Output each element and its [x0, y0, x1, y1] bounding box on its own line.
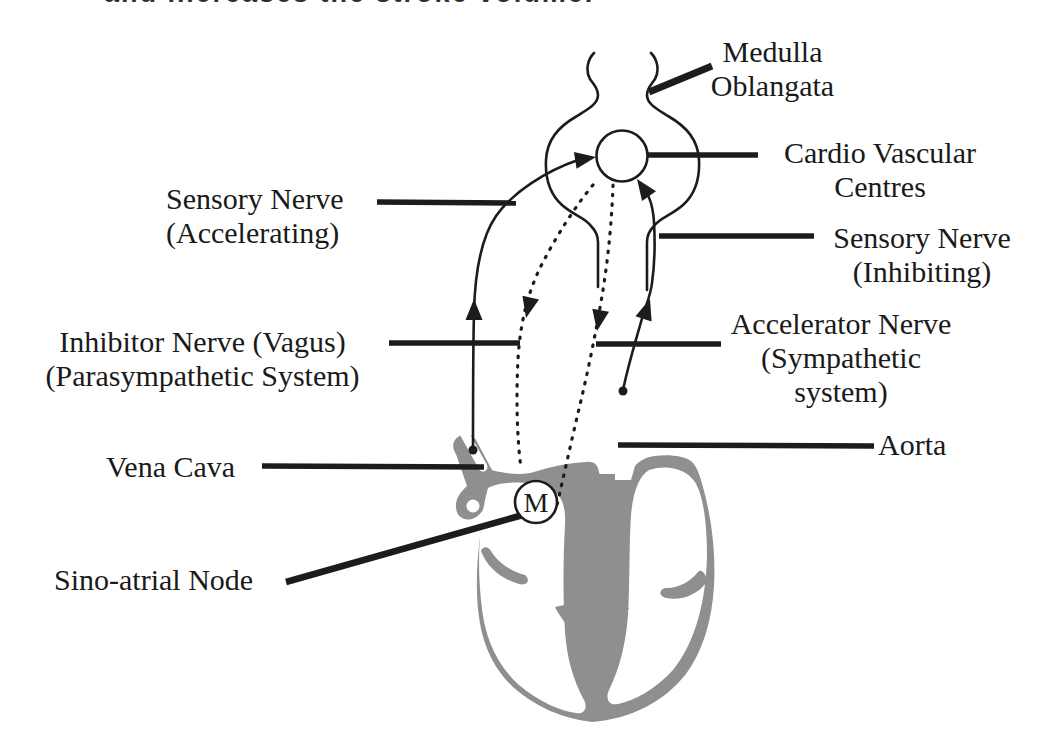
- medulla-oblongata: [546, 53, 699, 290]
- arrowhead-accelerator-mid: [589, 309, 609, 333]
- arrowhead-sensory-accelerating-end: [574, 149, 597, 169]
- vena-cava-pointer: [262, 466, 484, 467]
- label-medulla-oblongata: Medulla Oblangata: [685, 35, 860, 103]
- aorta-pointer: [618, 445, 874, 446]
- label-accelerator-nerve: Accelerator Nerve (Sympathetic system): [712, 307, 970, 409]
- sa-node: M: [515, 481, 557, 523]
- sensory-nerve-inhibiting-path: [623, 191, 655, 390]
- label-aorta: Aorta: [878, 428, 946, 462]
- clipped-top-text-line: and increases the stroke volume.: [104, 0, 594, 7]
- label-vena-cava: Vena Cava: [106, 450, 235, 484]
- label-accelerator-line3: system): [712, 375, 970, 409]
- label-cardio-vascular-centres: Cardio Vascular Centres: [755, 136, 1005, 204]
- label-medulla-line2: Oblangata: [685, 69, 860, 103]
- label-sensory-accel-line2: (Accelerating): [166, 216, 343, 250]
- label-inhibitor-nerve-vagus: Inhibitor Nerve (Vagus) (Parasympathetic…: [0, 325, 405, 393]
- label-sino-atrial-node: Sino-atrial Node: [54, 563, 253, 597]
- cardiovascular-centre-circle: [597, 131, 648, 182]
- label-sensory-accel-line1: Sensory Nerve: [166, 182, 343, 216]
- label-cardio-line1: Cardio Vascular: [755, 136, 1005, 170]
- label-aorta-line1: Aorta: [878, 428, 946, 462]
- sensory-accelerating-pointer: [377, 202, 516, 203]
- label-sensory-inhib-line1: Sensory Nerve: [812, 221, 1032, 255]
- label-accelerator-line1: Accelerator Nerve: [712, 307, 970, 341]
- clipped-top-text: and increases the stroke volume.: [0, 0, 1040, 7]
- label-accelerator-line2: (Sympathetic: [712, 341, 970, 375]
- label-medulla-line1: Medulla: [685, 35, 860, 69]
- label-cardio-line2: Centres: [755, 170, 1005, 204]
- label-inhibitor-line2: (Parasympathetic System): [0, 359, 405, 393]
- label-inhibitor-line1: Inhibitor Nerve (Vagus): [0, 325, 405, 359]
- label-sensory-inhib-line2: (Inhibiting): [812, 255, 1032, 289]
- atrium-curl-lumen: [467, 500, 480, 513]
- label-vena-cava-line1: Vena Cava: [106, 450, 235, 484]
- diagram-canvas: M and increases the stroke volume. Medul…: [0, 0, 1040, 755]
- inhibitor-nerve-vagus-path: [517, 185, 593, 468]
- label-sensory-nerve-inhibiting: Sensory Nerve (Inhibiting): [812, 221, 1032, 289]
- label-sino-line1: Sino-atrial Node: [54, 563, 253, 597]
- aorta-left-wall: [604, 357, 617, 484]
- aorta-receptor-dot: [619, 387, 628, 396]
- arrowhead-vagus-mid: [518, 296, 539, 320]
- arrowhead-sensory-accelerating-mid: [466, 299, 483, 320]
- heart: [453, 357, 714, 722]
- sa-node-letter: M: [524, 487, 549, 518]
- label-sensory-nerve-accelerating: Sensory Nerve (Accelerating): [166, 182, 343, 250]
- vena-cava-receptor-dot: [469, 446, 478, 455]
